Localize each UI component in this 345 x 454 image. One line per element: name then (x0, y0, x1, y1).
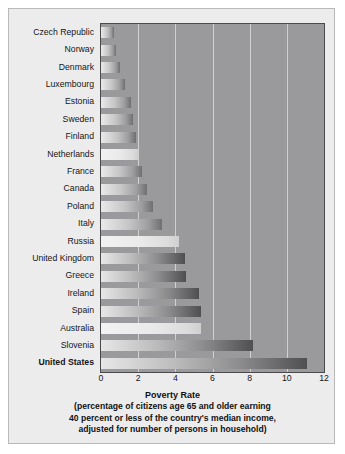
xtick-2: 2 (136, 373, 141, 383)
axis-label-italy: Italy (78, 218, 94, 228)
xtick-4: 4 (173, 373, 178, 383)
axis-label-luxembourg: Luxembourg (46, 79, 94, 89)
axis-label-australia: Australia (60, 323, 94, 333)
bar-greece (101, 271, 186, 282)
caption-line-1: (percentage of citizens age 65 and older… (15, 401, 330, 412)
x-axis-ticks: 024681012 (100, 373, 325, 387)
bar-luxembourg (101, 79, 125, 90)
category-axis-labels: Czech RepublicNorwayDenmarkLuxembourgEst… (9, 23, 97, 371)
bar-row (101, 236, 324, 247)
bar-russia (101, 236, 179, 247)
bar-row (101, 201, 324, 212)
bar-finland (101, 132, 136, 143)
axis-label-estonia: Estonia (65, 96, 94, 106)
axis-label-ireland: Ireland (67, 288, 94, 298)
bar-estonia (101, 97, 131, 108)
bar-norway (101, 45, 116, 56)
axis-label-united-states: United States (38, 357, 94, 367)
poverty-rate-bar-chart: Czech RepublicNorwayDenmarkLuxembourgEst… (9, 9, 336, 445)
bar-sweden (101, 114, 133, 125)
bar-row (101, 340, 324, 351)
bar-row (101, 219, 324, 230)
caption-line-2: 40 percent or less of the country's medi… (15, 413, 330, 424)
bar-slovenia (101, 340, 253, 351)
bar-row (101, 79, 324, 90)
bar-row (101, 149, 324, 160)
bar-row (101, 132, 324, 143)
axis-label-czech-republic: Czech Republic (33, 27, 94, 37)
xtick-12: 12 (319, 373, 329, 383)
xtick-10: 10 (282, 373, 292, 383)
bar-netherlands (101, 149, 138, 160)
plot-area (100, 23, 325, 373)
bar-czech-republic (101, 27, 114, 38)
axis-label-france: France (67, 166, 94, 176)
axis-label-poland: Poland (67, 201, 94, 211)
axis-label-spain: Spain (72, 305, 94, 315)
bar-united-kingdom (101, 253, 185, 264)
xtick-6: 6 (210, 373, 215, 383)
axis-label-russia: Russia (67, 236, 94, 246)
bar-canada (101, 184, 147, 195)
axis-label-united-kingdom: United Kingdom (32, 253, 94, 263)
axis-label-finland: Finland (66, 131, 95, 141)
bar-series (101, 24, 324, 372)
bar-row (101, 288, 324, 299)
axis-label-norway: Norway (65, 44, 94, 54)
bar-row (101, 97, 324, 108)
caption-line-3: adjusted for number of persons in househ… (15, 424, 330, 435)
bar-row (101, 45, 324, 56)
xtick-0: 0 (99, 373, 104, 383)
bar-row (101, 271, 324, 282)
bar-australia (101, 323, 201, 334)
axis-label-slovenia: Slovenia (61, 340, 94, 350)
bar-row (101, 306, 324, 317)
axis-title: Poverty Rate (15, 390, 330, 401)
bar-row (101, 166, 324, 177)
axis-label-sweden: Sweden (63, 114, 94, 124)
bar-row (101, 323, 324, 334)
bar-row (101, 184, 324, 195)
bar-italy (101, 219, 162, 230)
xtick-8: 8 (247, 373, 252, 383)
bar-ireland (101, 288, 199, 299)
bar-row (101, 253, 324, 264)
bar-row (101, 358, 324, 369)
bar-poland (101, 201, 153, 212)
axis-label-greece: Greece (66, 270, 95, 280)
axis-label-netherlands: Netherlands (47, 149, 94, 159)
bar-row (101, 62, 324, 73)
bar-france (101, 166, 142, 177)
axis-label-canada: Canada (64, 183, 94, 193)
bar-denmark (101, 62, 120, 73)
axis-label-denmark: Denmark (59, 62, 94, 72)
chart-caption: Poverty Rate (percentage of citizens age… (15, 390, 330, 435)
chart-figure: Czech RepublicNorwayDenmarkLuxembourgEst… (8, 8, 335, 444)
bar-spain (101, 306, 201, 317)
bar-row (101, 114, 324, 125)
bar-united-states (101, 358, 307, 369)
bar-row (101, 27, 324, 38)
